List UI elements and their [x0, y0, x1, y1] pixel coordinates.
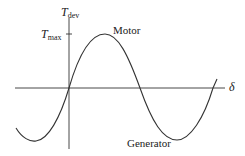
tmax-label: Tmax [41, 28, 61, 42]
y-axis-label: Tdev [61, 6, 79, 20]
generator-label: Generator [127, 138, 171, 149]
motor-label: Motor [113, 25, 141, 36]
x-axis-label: δ [229, 81, 235, 93]
